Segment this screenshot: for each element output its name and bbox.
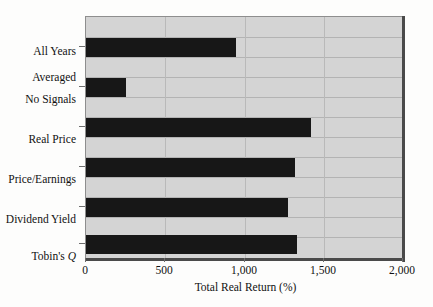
- gridline-vertical: [324, 17, 325, 258]
- y-axis-label-tobins-q: Tobin's Q: [0, 237, 82, 263]
- x-tick-label-1000: 1,000: [231, 264, 257, 276]
- gridline-vertical: [245, 17, 246, 258]
- x-tick-mark: [85, 258, 86, 262]
- bar-all-years-averaged[interactable]: [86, 38, 236, 57]
- bar-dividend-yield[interactable]: [86, 198, 288, 217]
- x-tick-label-1500: 1,500: [310, 264, 336, 276]
- x-axis-title-wrapper: Total Real Return (%): [0, 281, 433, 293]
- y-axis-label-price-earnings: Price/Earnings: [0, 160, 82, 186]
- y-label-line1: Tobin's: [32, 250, 68, 262]
- y-label-line1: Dividend Yield: [6, 213, 76, 225]
- bar-price-earnings[interactable]: [86, 158, 295, 177]
- y-label-line1: All Years: [33, 45, 76, 57]
- x-tick-label-0: 0: [82, 264, 88, 276]
- chart-figure: All Years Averaged No Signals Real Price…: [0, 0, 433, 307]
- y-axis-label-all-years-averaged: All Years Averaged: [0, 32, 82, 84]
- x-tick-mark: [323, 258, 324, 262]
- x-tick-label-500: 500: [155, 264, 172, 276]
- axis-bottom: [85, 258, 405, 261]
- bar-no-signals[interactable]: [86, 78, 126, 97]
- bar-real-price[interactable]: [86, 118, 311, 137]
- y-axis-label-dividend-yield: Dividend Yield: [0, 200, 82, 226]
- y-label-line1: No Signals: [25, 93, 76, 105]
- y-label-italic-suffix: Q: [68, 250, 76, 262]
- plot-area: [85, 16, 403, 258]
- y-axis-label-no-signals: No Signals: [0, 80, 82, 106]
- axis-right: [402, 16, 405, 262]
- x-tick-mark: [402, 258, 403, 262]
- y-label-line1: Price/Earnings: [8, 173, 76, 185]
- x-axis-title: Total Real Return (%): [195, 281, 297, 293]
- x-tick-mark: [244, 258, 245, 262]
- x-tick-mark: [164, 258, 165, 262]
- bar-tobins-q[interactable]: [86, 235, 297, 254]
- y-label-line1: Real Price: [28, 133, 76, 145]
- y-axis-label-real-price: Real Price: [0, 120, 82, 146]
- x-tick-label-2000: 2,000: [389, 264, 415, 276]
